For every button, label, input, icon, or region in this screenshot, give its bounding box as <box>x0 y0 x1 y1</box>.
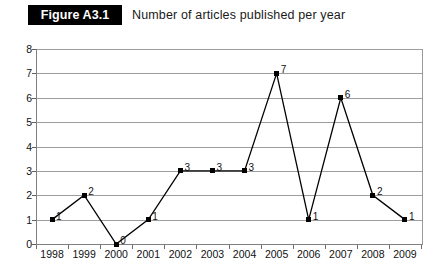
data-point <box>242 168 247 173</box>
data-point-label: 1 <box>56 212 62 222</box>
data-point-label: 1 <box>313 212 319 222</box>
x-axis-tick <box>389 245 390 249</box>
x-axis-tick <box>293 245 294 249</box>
figure-number-badge: Figure A3.1 <box>28 5 122 25</box>
x-axis-tick <box>357 245 358 249</box>
data-point <box>82 193 87 198</box>
x-axis-tick <box>261 245 262 249</box>
data-point <box>210 168 215 173</box>
x-axis-tick <box>421 245 422 249</box>
x-axis-tick <box>132 245 133 249</box>
x-axis-tick <box>100 245 101 249</box>
data-point-label: 3 <box>184 163 190 173</box>
data-point <box>370 193 375 198</box>
x-axis-tick <box>68 245 69 249</box>
x-axis-tick <box>164 245 165 249</box>
data-point-label: 2 <box>88 187 94 197</box>
data-point-label: 2 <box>377 187 383 197</box>
data-point <box>402 217 407 222</box>
x-axis-tick <box>36 245 37 249</box>
data-point <box>50 217 55 222</box>
data-point-label: 1 <box>152 212 158 222</box>
data-point-label: 0 <box>120 236 126 246</box>
data-point <box>146 217 151 222</box>
data-point-label: 3 <box>216 163 222 173</box>
data-point-label: 3 <box>249 163 255 173</box>
data-point <box>274 71 279 76</box>
data-point <box>338 95 343 100</box>
figure-header: Figure A3.1 Number of articles published… <box>0 0 439 32</box>
series-line <box>0 32 439 278</box>
x-axis-tick <box>229 245 230 249</box>
figure-caption: Number of articles published per year <box>132 6 345 25</box>
x-axis-tick <box>196 245 197 249</box>
data-point <box>114 242 119 247</box>
data-point-label: 1 <box>409 212 415 222</box>
data-point-label: 6 <box>345 90 351 100</box>
x-axis-tick <box>325 245 326 249</box>
chart-area: 012345678 199819992000200120022003200420… <box>0 32 439 278</box>
data-point <box>306 217 311 222</box>
data-point <box>178 168 183 173</box>
data-point-label: 7 <box>281 65 287 75</box>
